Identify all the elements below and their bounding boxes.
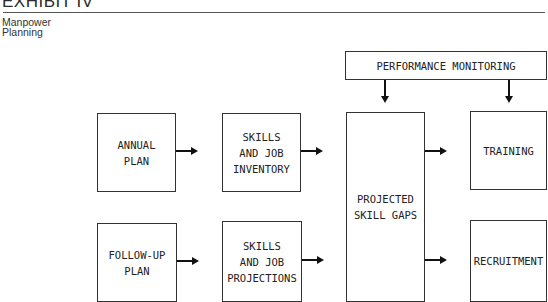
exhibit-title: EXHIBIT IV: [2, 0, 94, 12]
arrow-gaps-to-recruitment: [425, 259, 441, 261]
exhibit-subtitle: Manpower Planning: [2, 17, 51, 37]
performance-monitoring-box: PERFORMANCE MONITORING: [345, 51, 547, 80]
projected-skill-gaps-box: PROJECTED SKILL GAPS: [346, 112, 425, 302]
recruitment-box: RECRUITMENT: [470, 220, 547, 302]
follow-up-plan-box: FOLLOW-UP PLAN: [97, 223, 177, 302]
arrow-inventory-to-gaps: [301, 150, 317, 152]
skills-projections-box: SKILLS AND JOB PROJECTIONS: [222, 221, 302, 302]
arrow-perf-to-training: [508, 80, 510, 97]
arrow-projections-to-gaps: [302, 259, 318, 261]
arrow-followup-to-projections: [177, 260, 193, 262]
skills-inventory-box: SKILLS AND JOB INVENTORY: [222, 113, 301, 192]
subtitle-line-2: Planning: [2, 27, 51, 37]
header-divider: [3, 12, 545, 13]
training-box: TRAINING: [470, 111, 547, 190]
annual-plan-box: ANNUAL PLAN: [97, 113, 176, 192]
arrow-annual-to-inventory: [176, 150, 192, 152]
arrow-gaps-to-training: [425, 150, 441, 152]
arrow-perf-to-gaps: [384, 80, 386, 97]
